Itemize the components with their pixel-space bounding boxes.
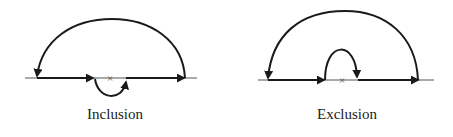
- large-arc-arrow: [268, 11, 418, 80]
- pole-marker: ×: [339, 74, 345, 86]
- pole-marker: ×: [107, 72, 113, 84]
- exclusion-label: Exclusion: [287, 106, 407, 123]
- large-arc-arrow: [37, 19, 185, 78]
- inclusion-diagram: ×: [25, 19, 197, 96]
- exclusion-diagram: ×: [258, 11, 434, 86]
- inclusion-label: Inclusion: [55, 106, 175, 123]
